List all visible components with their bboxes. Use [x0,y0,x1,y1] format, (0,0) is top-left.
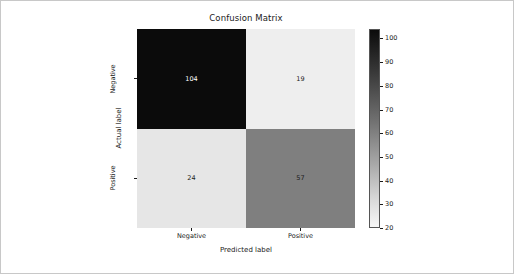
matrix-cell-true-negative: 104 [137,29,246,129]
colorbar [369,29,380,228]
colorbar-tickmark [380,133,383,134]
matrix-cell-false-negative: 24 [137,129,246,229]
colorbar-tick-label: 70 [385,106,393,114]
colorbar-tick-label: 50 [385,153,393,161]
matrix-cell-false-positive: 19 [246,29,355,129]
colorbar-tick-label: 40 [385,177,393,185]
colorbar-tick-label: 100 [385,34,397,42]
x-tickmark [300,228,301,231]
matrix-cell-value: 57 [296,175,304,182]
page-title: Confusion Matrix [137,13,355,23]
colorbar-gradient [369,29,380,228]
colorbar-tickmark [380,110,383,111]
y-tickmark [134,78,137,79]
colorbar-tickmark [380,204,383,205]
chart-figure: Confusion Matrix 104 19 24 57 Negative P… [0,0,514,274]
y-axis-title: Actual label [115,78,123,178]
colorbar-tickmark [380,38,383,39]
colorbar-tickmark [380,181,383,182]
colorbar-tickmark [380,228,383,229]
colorbar-tick-label: 60 [385,129,393,137]
colorbar-tickmark [380,62,383,63]
colorbar-tick-label: 30 [385,200,393,208]
matrix-cell-value: 24 [187,175,195,182]
confusion-matrix-heatmap: 104 19 24 57 [137,29,355,228]
colorbar-tick-label: 20 [385,224,393,232]
colorbar-tick-label: 90 [385,58,393,66]
colorbar-tick-label: 80 [385,82,393,90]
x-axis-title: Predicted label [137,246,355,254]
x-axis-tick-label-negative: Negative [137,232,246,240]
x-tickmark [191,228,192,231]
matrix-cell-true-positive: 57 [246,129,355,229]
matrix-cell-value: 19 [296,76,304,83]
x-axis-tick-label-positive: Positive [246,232,355,240]
colorbar-tickmark [380,86,383,87]
y-tickmark [134,178,137,179]
colorbar-tickmark [380,157,383,158]
matrix-cell-value: 104 [185,76,197,83]
